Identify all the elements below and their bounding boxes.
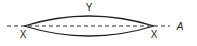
lower-arc [24, 26, 154, 36]
lens-diagram: Y X X A [0, 0, 197, 46]
label-left-point: X [20, 29, 27, 40]
label-axis: A [176, 21, 184, 32]
label-top: Y [86, 2, 93, 13]
upper-arc [24, 16, 154, 26]
label-right-point: X [151, 29, 158, 40]
